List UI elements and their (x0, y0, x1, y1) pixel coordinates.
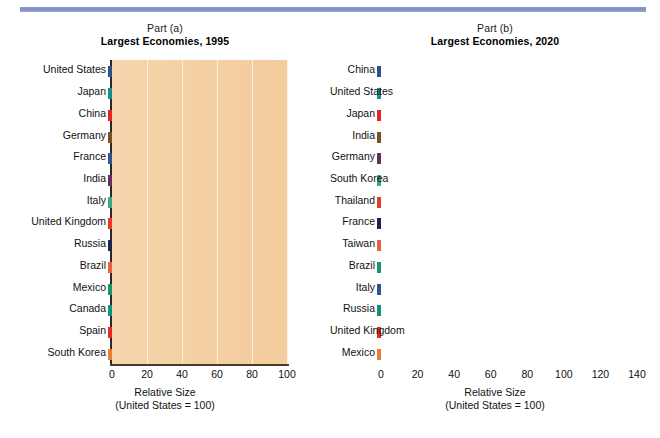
bar-canada[interactable] (112, 301, 131, 316)
gridline (287, 60, 288, 364)
bar-germany[interactable] (112, 128, 161, 143)
category-label: Russia (0, 238, 106, 249)
x-tick-label: 60 (471, 368, 511, 380)
category-label: France (0, 151, 106, 162)
bar-germany[interactable] (381, 149, 427, 164)
bar-spain[interactable] (112, 323, 130, 338)
bar-side (108, 262, 112, 273)
part-label-b: Part (b) (330, 22, 660, 34)
bar-side (377, 110, 381, 121)
category-label: Russia (330, 303, 375, 314)
bar-side (377, 262, 381, 273)
x-tick-label: 100 (544, 368, 584, 380)
category-label: Thailand (330, 195, 375, 206)
bar-china[interactable] (112, 106, 182, 121)
category-label: United States (0, 64, 106, 75)
x-axis-title-b-line1: Relative Size (330, 386, 660, 398)
bar-united-kingdom[interactable] (112, 214, 140, 229)
bar-side (108, 66, 112, 77)
bar-side (108, 284, 112, 295)
bar-thailand[interactable] (381, 193, 415, 208)
x-tick-label: 80 (507, 368, 547, 380)
category-label: South Korea (330, 173, 375, 184)
category-label: Taiwan (330, 238, 375, 249)
chart-title-b: Largest Economies, 2020 (330, 35, 660, 47)
bar-japan[interactable] (381, 106, 468, 121)
bar-mexico[interactable] (112, 280, 133, 295)
gridline (182, 60, 183, 364)
x-tick-label: 0 (361, 368, 401, 380)
header-divider-rule (20, 7, 646, 12)
category-label: India (330, 130, 375, 141)
bar-russia[interactable] (381, 301, 408, 316)
bar-italy[interactable] (381, 280, 408, 295)
bar-france[interactable] (381, 214, 414, 229)
chart-title-a: Largest Economies, 1995 (0, 35, 330, 47)
gridline (252, 60, 253, 364)
x-axis-line-a (110, 364, 289, 366)
bar-side (377, 132, 381, 143)
bar-side (108, 175, 112, 186)
x-axis-title-a-line1: Relative Size (0, 386, 330, 398)
bar-italy[interactable] (112, 193, 145, 208)
category-label: Italy (0, 195, 106, 206)
category-label: Japan (0, 86, 106, 97)
category-label: Germany (0, 130, 106, 141)
x-tick-label: 40 (434, 368, 474, 380)
bar-side (377, 349, 381, 360)
bar-side (377, 305, 381, 316)
bar-side (377, 284, 381, 295)
bar-side (108, 240, 112, 251)
category-label: China (0, 108, 106, 119)
bar-side (108, 218, 112, 229)
category-label: United States (330, 86, 375, 97)
bar-side (108, 197, 112, 208)
x-tick-label: 0 (92, 368, 132, 380)
category-label: France (330, 216, 375, 227)
bar-japan[interactable] (112, 84, 184, 99)
category-label: Germany (330, 151, 375, 162)
x-axis-title-b-line2: (United States = 100) (330, 399, 660, 411)
bar-side (108, 132, 112, 143)
x-tick-label: 100 (267, 368, 307, 380)
bar-france[interactable] (112, 149, 147, 164)
chart-panel-b: Part (b) Largest Economies, 2020 ChinaUn… (330, 18, 660, 428)
x-tick-label: 40 (162, 368, 202, 380)
category-label: United Kingdom (0, 216, 106, 227)
category-label: China (330, 64, 375, 75)
category-label: Canada (0, 303, 106, 314)
bar-side (108, 153, 112, 164)
category-label: Brazil (0, 260, 106, 271)
bar-side (108, 349, 112, 360)
gridline (217, 60, 218, 364)
bar-mexico[interactable] (381, 345, 404, 360)
bar-india[interactable] (381, 128, 440, 143)
x-tick-label: 120 (580, 368, 620, 380)
bar-united-states[interactable] (112, 62, 287, 77)
category-label: Brazil (330, 260, 375, 271)
bar-india[interactable] (112, 171, 147, 186)
bar-side (377, 153, 381, 164)
bar-side (108, 327, 112, 338)
x-tick-label: 20 (398, 368, 438, 380)
bar-china[interactable] (381, 62, 632, 77)
category-label: Mexico (330, 347, 375, 358)
bar-brazil[interactable] (381, 258, 410, 273)
category-label: Spain (0, 325, 106, 336)
bar-russia[interactable] (112, 236, 138, 251)
figure-canvas: Part (a) Largest Economies, 1995 United … (0, 0, 660, 438)
x-tick-label: 80 (232, 368, 272, 380)
bar-taiwan[interactable] (381, 236, 413, 251)
x-axis-title-a-line2: (United States = 100) (0, 399, 330, 411)
x-tick-label: 140 (617, 368, 657, 380)
x-tick-label: 60 (197, 368, 237, 380)
bar-brazil[interactable] (112, 258, 135, 273)
part-label-a: Part (a) (0, 22, 330, 34)
bar-side (108, 305, 112, 316)
bar-south-korea[interactable] (112, 345, 128, 360)
bar-side (377, 218, 381, 229)
bar-side (108, 110, 112, 121)
x-tick-label: 20 (127, 368, 167, 380)
bar-united-states[interactable] (381, 84, 564, 99)
chart-panel-a: Part (a) Largest Economies, 1995 United … (0, 18, 330, 428)
